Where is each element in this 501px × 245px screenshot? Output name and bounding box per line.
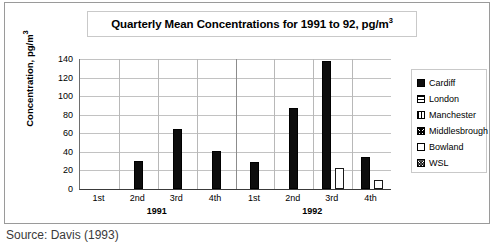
legend-item-bowland[interactable]: Bowland: [417, 139, 486, 155]
legend-swatch-icon-bowland: [417, 143, 425, 151]
legend-item-cardiff[interactable]: Cardiff: [417, 75, 486, 91]
y-axis-tick-60: 60: [41, 128, 73, 138]
y-axis-tick-20: 20: [41, 165, 73, 175]
bar-cardiff-6: [322, 61, 331, 189]
legend-label: London: [429, 95, 459, 104]
y-axis-tick-80: 80: [41, 110, 73, 120]
legend-item-wsl[interactable]: WSL: [417, 155, 486, 171]
legend-label: WSL: [429, 159, 449, 168]
bar-cardiff-3: [212, 151, 221, 189]
chart-figure-frame: Quarterly Mean Concentrations for 1991 t…: [4, 2, 490, 224]
category-divider-6: [313, 59, 314, 189]
bar-bowland-6: [335, 168, 344, 189]
legend-item-manchester[interactable]: Manchester: [417, 107, 486, 123]
legend-swatch-icon-middlesbrough: [417, 127, 425, 135]
x-axis-tick-0: 1st: [92, 193, 104, 203]
y-axis-title-superscript: 3: [21, 30, 30, 34]
x-axis-tick-4: 1st: [248, 193, 260, 203]
legend-swatch-icon-wsl: [417, 159, 425, 167]
x-axis-group-1991: 1991: [147, 206, 167, 216]
legend-label: Manchester: [429, 111, 476, 120]
legend-label: Bowland: [429, 143, 464, 152]
category-divider-2: [158, 59, 159, 189]
legend-swatch-icon-manchester: [417, 111, 425, 119]
source-note: Source: Davis (1993): [6, 228, 119, 242]
bar-bowland-7: [374, 180, 383, 189]
category-divider-5: [274, 59, 275, 189]
x-axis-tick-1: 2nd: [130, 193, 145, 203]
y-axis-title: Concentration, pg/m3: [24, 19, 35, 139]
legend-swatch-icon-london: [417, 95, 425, 103]
x-axis-group-labels: 19911992: [79, 206, 390, 220]
x-axis-tick-7: 4th: [364, 193, 377, 203]
legend-label: Cardiff: [429, 79, 455, 88]
category-divider-3: [197, 59, 198, 189]
bar-cardiff-1: [134, 161, 143, 189]
x-axis-tick-5: 2nd: [285, 193, 300, 203]
y-axis-tick-120: 120: [41, 73, 73, 83]
x-axis-tick-2: 3rd: [170, 193, 183, 203]
legend-item-london[interactable]: London: [417, 91, 486, 107]
y-axis-tick-labels: 140120100806040200: [41, 53, 77, 193]
y-axis-tick-100: 100: [41, 91, 73, 101]
y-axis-title-text: Concentration, pg/m: [24, 34, 35, 126]
bar-cardiff-4: [250, 162, 259, 189]
legend-label: Middlesbrough: [429, 127, 488, 136]
bar-cardiff-2: [173, 129, 182, 189]
legend-swatch-icon-cardiff: [417, 79, 425, 87]
bar-cardiff-7: [361, 157, 370, 190]
category-divider-1: [119, 59, 120, 189]
y-axis-tick-40: 40: [41, 147, 73, 157]
x-axis-group-1992: 1992: [302, 206, 322, 216]
x-axis-tick-3: 4th: [209, 193, 222, 203]
plot-area: [79, 59, 391, 190]
bar-cardiff-5: [289, 108, 298, 189]
y-axis-tick-140: 140: [41, 54, 73, 64]
legend-item-middlesbrough[interactable]: Middlesbrough: [417, 123, 486, 139]
y-axis-tick-0: 0: [41, 184, 73, 194]
x-axis-tick-labels: 1st2nd3rd4th1st2nd3rd4th: [79, 193, 390, 207]
category-divider-7: [352, 59, 353, 189]
x-axis-tick-6: 3rd: [325, 193, 338, 203]
chart-legend: CardiffLondonManchesterMiddlesbroughBowl…: [411, 69, 487, 173]
category-divider-4: [236, 59, 237, 189]
